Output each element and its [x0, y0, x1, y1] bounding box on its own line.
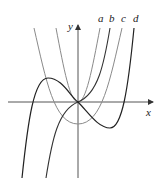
y-axis-label: y: [67, 20, 73, 32]
curve-d-label: d: [133, 12, 139, 24]
curve-c-label: c: [121, 12, 126, 24]
x-axis-label: x: [145, 106, 151, 118]
curve-a-label: a: [98, 12, 104, 24]
curve-b-label: b: [109, 12, 115, 24]
graph-figure: y x a b c d: [0, 0, 160, 181]
